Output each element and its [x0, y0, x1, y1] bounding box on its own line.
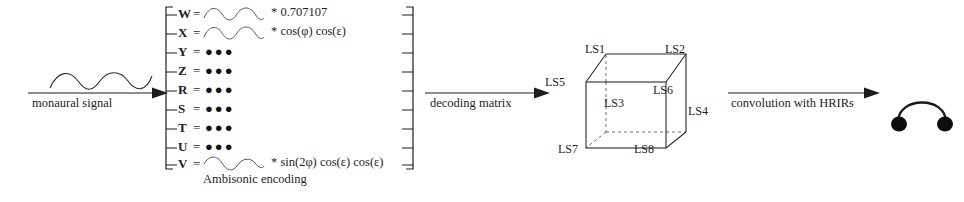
channel-equals-u: =	[193, 139, 200, 155]
channel-letter-s: S	[178, 101, 186, 117]
channel-equals-s: =	[193, 101, 200, 117]
channel-dots-z: ●●●	[205, 63, 235, 79]
channel-letter-r: R	[178, 82, 188, 98]
channel-equals-v: =	[193, 156, 200, 172]
decoding-matrix-label: decoding matrix	[430, 96, 512, 111]
channel-letter-y: Y	[178, 44, 188, 60]
left-bracket	[163, 6, 179, 170]
channel-equals-t: =	[193, 120, 200, 136]
channel-equals-x: =	[193, 25, 200, 41]
speaker-label-ls8: LS8	[634, 142, 654, 157]
channel-letter-w: W	[178, 6, 191, 22]
ambisonic-encoding-caption: Ambisonic encoding	[203, 172, 307, 187]
channel-equals-z: =	[193, 63, 200, 79]
channel-equals-r: =	[193, 82, 200, 98]
speaker-label-ls3: LS3	[604, 96, 624, 111]
speaker-label-ls5: LS5	[545, 75, 565, 90]
channel-wave-icon-w	[203, 4, 265, 24]
channel-letter-t: T	[178, 120, 187, 136]
channel-formula-w: * 0.707107	[271, 5, 327, 20]
channel-formula-v: * sin(2φ) cos(ε) cos(ε)	[271, 155, 383, 170]
right-bracket	[400, 6, 416, 170]
channel-wave-icon-x	[203, 23, 265, 43]
speaker-label-ls1: LS1	[585, 42, 605, 57]
channel-letter-z: Z	[178, 63, 187, 79]
channel-letter-u: U	[178, 139, 188, 155]
speaker-label-ls6: LS6	[653, 83, 673, 98]
speaker-label-ls4: LS4	[688, 104, 708, 119]
ambisonic-signal-chain-diagram: monaural signal W = * 0.707107 X = * cos…	[0, 0, 964, 202]
channel-letter-x: X	[178, 25, 188, 41]
channel-dots-r: ●●●	[205, 82, 235, 98]
channel-dots-s: ●●●	[205, 101, 235, 117]
speaker-label-ls2: LS2	[665, 42, 685, 57]
monaural-signal-label: monaural signal	[32, 96, 112, 111]
channel-equals-w: =	[193, 6, 200, 22]
channel-dots-y: ●●●	[205, 44, 235, 60]
hrir-convolution-label: convolution with HRIRs	[731, 96, 854, 111]
channel-dots-t: ●●●	[205, 120, 235, 136]
headphones-icon	[891, 82, 953, 134]
channel-equals-y: =	[193, 44, 200, 60]
channel-formula-x: * cos(φ) cos(ε)	[271, 24, 346, 39]
channel-letter-v: V	[178, 156, 188, 172]
channel-dots-u: ●●●	[205, 139, 235, 155]
speaker-label-ls7: LS7	[558, 142, 578, 157]
channel-wave-icon-v	[203, 154, 265, 174]
